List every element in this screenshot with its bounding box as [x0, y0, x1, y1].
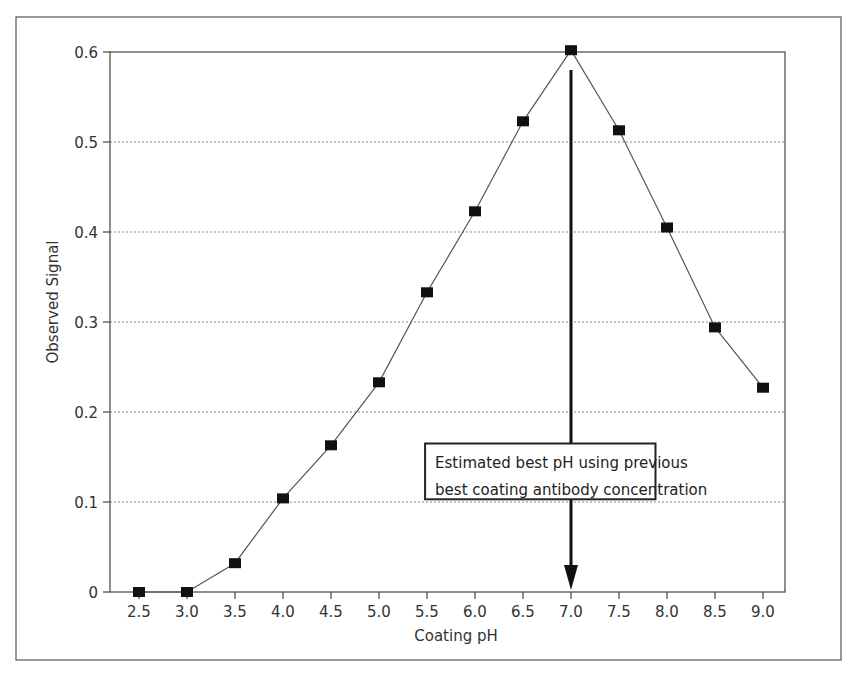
- data-point: [229, 558, 241, 568]
- data-point: [661, 223, 673, 233]
- x-tick-label: 3.0: [175, 603, 199, 621]
- data-point: [133, 587, 145, 597]
- chart: 00.10.20.30.40.50.6 2.53.03.54.04.55.05.…: [0, 0, 855, 678]
- y-tick-label: 0.3: [74, 314, 98, 332]
- y-tick-label: 0: [88, 584, 98, 602]
- annotation: Estimated best pH using previousbest coa…: [425, 70, 707, 590]
- data-point: [565, 45, 577, 55]
- x-tick-label: 7.5: [607, 603, 631, 621]
- y-tick-label: 0.6: [74, 44, 98, 62]
- outer-frame: [16, 17, 841, 660]
- x-tick-label: 6.5: [511, 603, 535, 621]
- y-tick-label: 0.5: [74, 134, 98, 152]
- y-tick-label: 0.2: [74, 404, 98, 422]
- x-tick-label: 5.0: [367, 603, 391, 621]
- data-point: [181, 587, 193, 597]
- y-axis: 00.10.20.30.40.50.6: [74, 44, 110, 602]
- series-line: [139, 50, 763, 592]
- series: [133, 45, 769, 597]
- y-axis-title: Observed Signal: [44, 240, 62, 363]
- data-point: [277, 493, 289, 503]
- x-tick-label: 4.0: [271, 603, 295, 621]
- x-axis-title: Coating pH: [414, 627, 498, 645]
- annotation-text: best coating antibody concentration: [435, 481, 707, 499]
- x-tick-label: 3.5: [223, 603, 247, 621]
- x-tick-label: 9.0: [751, 603, 775, 621]
- x-tick-label: 4.5: [319, 603, 343, 621]
- x-tick-label: 7.0: [559, 603, 583, 621]
- x-tick-label: 2.5: [127, 603, 151, 621]
- data-point: [421, 287, 433, 297]
- y-tick-label: 0.4: [74, 224, 98, 242]
- x-axis: 2.53.03.54.04.55.05.56.06.57.07.58.08.59…: [127, 592, 775, 621]
- arrow-head: [564, 565, 578, 590]
- x-tick-label: 8.0: [655, 603, 679, 621]
- data-point: [757, 383, 769, 393]
- x-tick-label: 5.5: [415, 603, 439, 621]
- data-point: [469, 206, 481, 216]
- x-tick-label: 6.0: [463, 603, 487, 621]
- x-tick-label: 8.5: [703, 603, 727, 621]
- data-point: [325, 440, 337, 450]
- data-point: [517, 116, 529, 126]
- data-point: [613, 125, 625, 135]
- annotation-text: Estimated best pH using previous: [435, 454, 688, 472]
- y-tick-label: 0.1: [74, 494, 98, 512]
- data-point: [709, 322, 721, 332]
- data-point: [373, 377, 385, 387]
